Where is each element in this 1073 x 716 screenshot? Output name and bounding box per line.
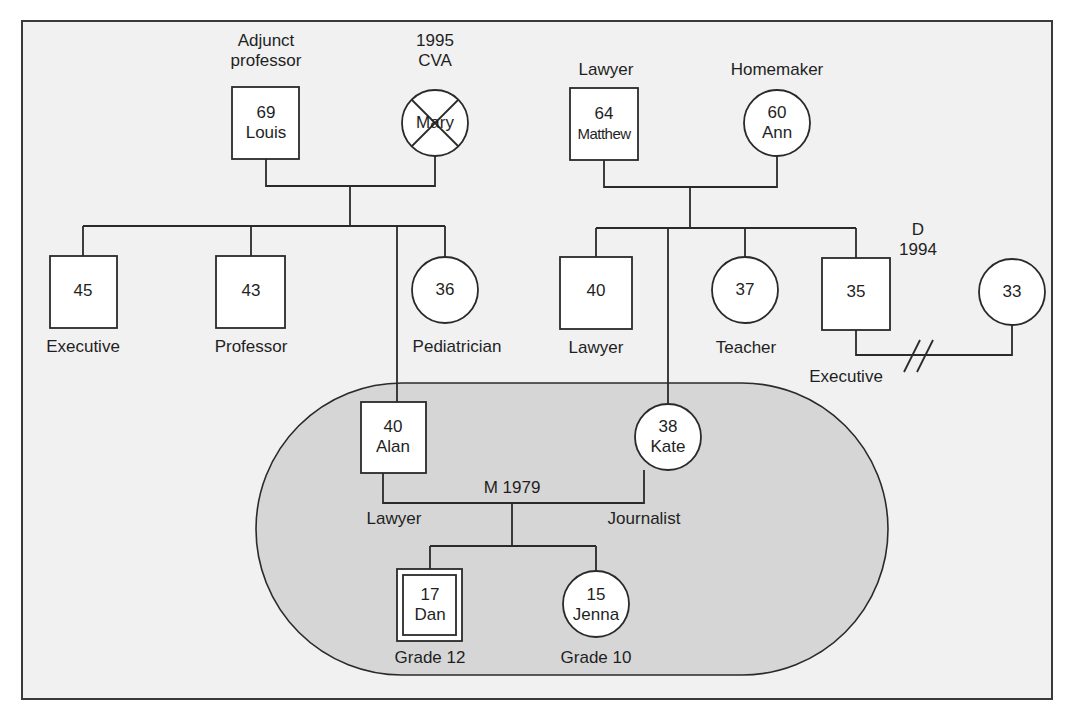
label-line: 1995 xyxy=(416,31,454,51)
age: 40 xyxy=(376,417,410,437)
label-mary-death: 1995 CVA xyxy=(416,31,454,71)
name: Jenna xyxy=(573,605,619,625)
node-37: 37 xyxy=(736,280,755,300)
label-line: Adjunct xyxy=(231,31,302,51)
label-jenna-grade: Grade 10 xyxy=(561,648,632,668)
age: 43 xyxy=(242,281,261,301)
label-43-occupation: Professor xyxy=(215,337,288,357)
age: 38 xyxy=(651,417,686,437)
label-matthew-occupation: Lawyer xyxy=(579,60,634,80)
age: 15 xyxy=(573,585,619,605)
node-43: 43 xyxy=(242,281,261,301)
node-louis: 69 Louis xyxy=(246,103,287,143)
divorce-slash-icon xyxy=(904,340,933,372)
name: Kate xyxy=(651,437,686,457)
label-line: 1994 xyxy=(899,240,937,260)
node-33: 33 xyxy=(1003,282,1022,302)
label-line: CVA xyxy=(416,51,454,71)
node-mary: Mary xyxy=(416,113,454,133)
age: 33 xyxy=(1003,282,1022,302)
node-ann: 60 Ann xyxy=(762,103,792,143)
age: 69 xyxy=(246,103,287,123)
node-40-lawyer: 40 xyxy=(587,281,606,301)
label-divorce: D 1994 xyxy=(899,220,937,260)
label-dan-grade: Grade 12 xyxy=(395,648,466,668)
label-marriage: M 1979 xyxy=(484,478,541,498)
node-kate: 38 Kate xyxy=(651,417,686,457)
node-45: 45 xyxy=(74,281,93,301)
age: 37 xyxy=(736,280,755,300)
name: Louis xyxy=(246,123,287,143)
name: Ann xyxy=(762,123,792,143)
name: Dan xyxy=(414,605,445,625)
node-matthew: 64 Matthew xyxy=(577,104,630,144)
label-line: D xyxy=(899,220,937,240)
label-ann-occupation: Homemaker xyxy=(731,60,824,80)
node-jenna: 15 Jenna xyxy=(573,585,619,625)
label-louis-occupation: Adjunct professor xyxy=(231,31,302,71)
age: 17 xyxy=(414,585,445,605)
age: 45 xyxy=(74,281,93,301)
age: 64 xyxy=(577,104,630,124)
label-45-occupation: Executive xyxy=(46,337,120,357)
label-35-occupation: Executive xyxy=(809,367,883,387)
label-36-occupation: Pediatrician xyxy=(413,337,502,357)
label-alan-occupation: Lawyer xyxy=(367,509,422,529)
name: Alan xyxy=(376,437,410,457)
age: 40 xyxy=(587,281,606,301)
label-kate-occupation: Journalist xyxy=(608,509,681,529)
age: 36 xyxy=(436,280,455,300)
node-alan: 40 Alan xyxy=(376,417,410,457)
label-40-occupation: Lawyer xyxy=(569,338,624,358)
label-37-occupation: Teacher xyxy=(716,338,776,358)
node-dan: 17 Dan xyxy=(414,585,445,625)
node-36: 36 xyxy=(436,280,455,300)
name: Matthew xyxy=(577,124,630,144)
age: 35 xyxy=(847,282,866,302)
label-line: professor xyxy=(231,51,302,71)
age: 60 xyxy=(762,103,792,123)
household-boundary xyxy=(256,383,888,675)
name: Mary xyxy=(416,113,454,133)
node-35: 35 xyxy=(847,282,866,302)
genogram-canvas xyxy=(0,0,1073,716)
